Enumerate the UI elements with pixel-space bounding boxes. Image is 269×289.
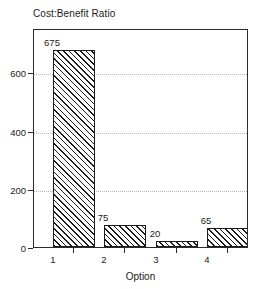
- bar-option-4: [207, 228, 248, 247]
- y-tick-mark-0: [28, 248, 33, 249]
- x-axis-title: Option: [33, 271, 248, 282]
- x-tick-label-4: 4: [187, 254, 227, 265]
- bar-value-label-option-3: 20: [132, 228, 178, 239]
- chart-title: Cost:Benefit Ratio: [33, 8, 115, 19]
- y-tick-label-0: 0: [0, 243, 26, 254]
- y-tick-label-400: 400: [0, 127, 26, 138]
- x-tick-mark-1: [73, 248, 74, 253]
- bar-chart: Cost:Benefit Ratio 0 200 400 600 675 75 …: [0, 0, 269, 289]
- x-tick-label-2: 2: [84, 254, 124, 265]
- y-tick-label-600: 600: [0, 68, 26, 79]
- x-tick-mark-2: [124, 248, 125, 253]
- bar-option-3: [156, 241, 198, 247]
- x-tick-mark-3: [176, 248, 177, 253]
- x-tick-label-1: 1: [33, 254, 73, 265]
- y-tick-label-200: 200: [0, 185, 26, 196]
- bar-value-label-option-2: 75: [80, 212, 126, 223]
- x-tick-mark-4: [227, 248, 228, 253]
- bar-value-label-option-1: 675: [29, 37, 75, 48]
- bar-value-label-option-4: 65: [183, 215, 229, 226]
- x-tick-label-3: 3: [136, 254, 176, 265]
